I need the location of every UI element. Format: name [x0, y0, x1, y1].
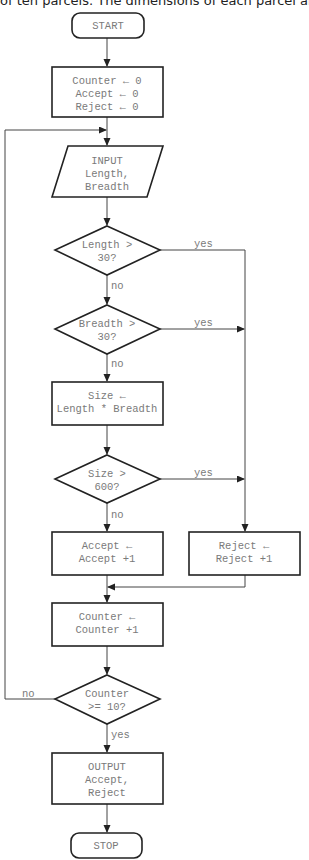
stop-terminal: STOP [71, 833, 142, 858]
no-label: no [22, 688, 35, 700]
no-label: no [111, 358, 124, 370]
input-data: INPUT Length, Breadth [52, 146, 163, 197]
flowchart: START Counter ← 0 Accept ← 0 Reject ← 0 … [0, 0, 309, 860]
shape-label: 30? [98, 252, 117, 264]
yes-label: yes [194, 467, 213, 479]
shape-label: 30? [98, 331, 117, 343]
shape-label: Counter ← [79, 611, 136, 623]
shape-label: INPUT [91, 155, 123, 167]
decision-counter: Counter >= 10? [55, 675, 160, 724]
shape-label: >= 10? [88, 701, 126, 713]
decision-breadth: Breadth > 30? [55, 305, 160, 354]
shape-label: Length * Breadth [57, 403, 158, 415]
shape-label: Counter ← 0 [72, 75, 141, 87]
shape-label: Reject +1 [216, 553, 273, 565]
shape-label: Size > [88, 468, 126, 480]
shape-label: Accept, [85, 774, 129, 786]
shape-label: Counter [85, 688, 129, 700]
decision-length: Length > 30? [55, 226, 160, 275]
shape-label: Accept +1 [79, 553, 136, 565]
yes-label: yes [194, 317, 213, 329]
yes-label: yes [194, 238, 213, 250]
decision-size: Size > 600? [55, 455, 160, 503]
output-process: OUTPUT Accept, Reject [52, 753, 163, 804]
shape-label: Breadth > [79, 318, 136, 330]
init-process: Counter ← 0 Accept ← 0 Reject ← 0 [52, 67, 163, 117]
shape-label: OUTPUT [88, 761, 126, 773]
start-terminal: START [72, 13, 144, 38]
shape-label: 600? [94, 481, 119, 493]
no-label: no [111, 509, 124, 521]
shape-label: Length, [85, 168, 129, 180]
yes-label: yes [111, 729, 130, 741]
shape-label: START [92, 20, 124, 32]
shape-label: Reject ← 0 [75, 101, 138, 113]
shape-label: STOP [93, 840, 118, 852]
shape-label: Counter +1 [75, 624, 138, 636]
shape-label: Breadth [85, 181, 129, 193]
reject-process: Reject ← Reject +1 [189, 532, 300, 575]
accept-process: Accept ← Accept +1 [52, 532, 163, 575]
size-process: Size ← Length * Breadth [52, 382, 163, 425]
shape-label: Length > [82, 239, 132, 251]
shape-label: Accept ← 0 [75, 88, 138, 100]
shape-label: Size ← [88, 390, 127, 402]
no-label: no [111, 280, 124, 292]
counter-process: Counter ← Counter +1 [52, 603, 163, 646]
shape-label: Accept ← [82, 540, 133, 552]
shape-label: Reject ← [219, 540, 270, 552]
shape-label: Reject [88, 787, 126, 799]
